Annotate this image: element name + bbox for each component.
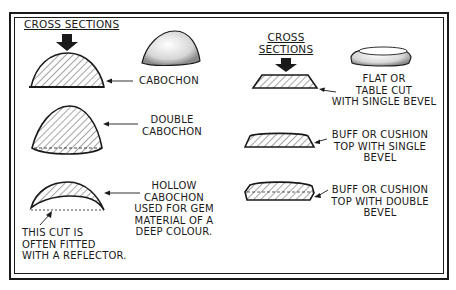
double-cabochon-section xyxy=(32,106,102,154)
flat-table-section xyxy=(253,75,317,88)
reflector-note: THIS CUT IS OFTEN FITTED WITH A REFLECTO… xyxy=(22,227,127,262)
down-arrow-icon-left xyxy=(56,34,78,51)
buff-single-label: BUFF OR CUSHION TOP WITH SINGLE BEVEL xyxy=(328,129,432,164)
cabochon-section xyxy=(31,53,104,87)
right-heading: CROSS SECTIONS xyxy=(258,32,314,55)
buff-single-section xyxy=(245,133,314,147)
cabochon-3d xyxy=(142,31,200,65)
flat-table-3d xyxy=(351,47,411,66)
buff-double-section xyxy=(245,182,314,200)
double-cabochon-label: DOUBLE CABOCHON xyxy=(142,114,202,137)
flat-table-label: FLAT OR TABLE CUT WITH SINGLE BEVEL xyxy=(330,73,438,108)
cabochon-label: CABOCHON xyxy=(139,75,199,87)
buff-double-label: BUFF OR CUSHION TOP WITH DOUBLE BEVEL xyxy=(328,184,432,219)
left-heading: CROSS SECTIONS xyxy=(24,19,119,31)
hollow-cabochon-label: HOLLOW CABOCHON USED FOR GEM MATERIAL OF… xyxy=(126,180,222,238)
down-arrow-icon-right xyxy=(275,58,297,72)
hollow-cabochon-section xyxy=(31,182,104,210)
